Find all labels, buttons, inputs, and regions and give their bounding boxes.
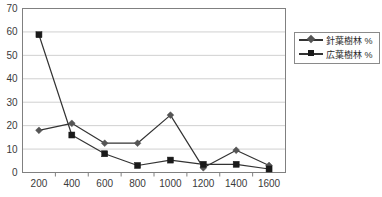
data-point-square xyxy=(233,161,239,167)
y-axis-label: 60 xyxy=(6,26,18,37)
legend-label-1: 広葉樹林 % xyxy=(326,48,373,61)
data-point-square xyxy=(266,166,272,172)
x-axis-label: 400 xyxy=(63,178,80,189)
chart-canvas: 0102030405060702004006008001000120014001… xyxy=(0,0,382,197)
y-axis-label: 10 xyxy=(6,144,18,155)
x-axis-label: 1600 xyxy=(258,178,281,189)
legend-item-1[interactable]: 広葉樹林 % xyxy=(295,47,379,61)
legend-marker-square-icon xyxy=(299,48,323,60)
x-axis-label: 800 xyxy=(129,178,146,189)
y-axis-label: 40 xyxy=(6,73,18,84)
data-point-square xyxy=(36,32,42,38)
x-axis-label: 200 xyxy=(31,178,48,189)
line-chart: 0102030405060702004006008001000120014001… xyxy=(0,0,382,197)
y-axis-label: 30 xyxy=(6,97,18,108)
data-point-diamond xyxy=(36,127,43,134)
x-axis-label: 1400 xyxy=(225,178,248,189)
data-point-diamond xyxy=(101,140,108,147)
legend-item-0[interactable]: 針葉樹林 % xyxy=(295,33,379,47)
data-point-diamond xyxy=(233,147,240,154)
data-point-square xyxy=(167,157,173,163)
legend-marker-diamond-icon xyxy=(299,34,323,46)
plot-frame xyxy=(23,9,286,173)
y-axis-label: 70 xyxy=(6,3,18,14)
chart-legend: 針葉樹林 % 広葉樹林 % xyxy=(294,32,380,64)
legend-label-0: 針葉樹林 % xyxy=(326,34,373,47)
y-axis-label: 0 xyxy=(12,167,18,178)
y-axis-label: 20 xyxy=(6,120,18,131)
data-point-square xyxy=(69,132,75,138)
x-axis-label: 1200 xyxy=(192,178,215,189)
data-point-square xyxy=(200,161,206,167)
x-axis-label: 600 xyxy=(96,178,113,189)
data-point-square xyxy=(102,151,108,157)
data-point-square xyxy=(135,162,141,168)
x-axis-label: 1000 xyxy=(159,178,182,189)
y-axis-label: 50 xyxy=(6,50,18,61)
